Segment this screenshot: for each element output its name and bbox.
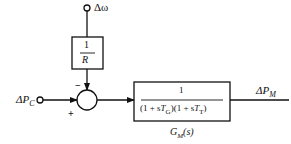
reference-power-terminal xyxy=(37,97,43,103)
droop-numerator: 1 xyxy=(84,40,89,50)
block-diagram-canvas xyxy=(0,0,291,144)
speed-deviation-label: Δω xyxy=(94,2,108,13)
reference-power-label: ΔPC xyxy=(16,94,35,108)
speed-deviation-terminal xyxy=(84,5,90,11)
summing-junction xyxy=(77,90,97,110)
output-label: ΔPM xyxy=(256,85,276,99)
transfer-denominator: (1 + sTG)(1 + sTT) xyxy=(140,104,207,116)
block-label: GM(s) xyxy=(170,127,194,140)
droop-denominator: R xyxy=(82,55,88,65)
minus-sign: − xyxy=(75,81,81,91)
plus-sign: + xyxy=(68,109,74,119)
transfer-numerator: 1 xyxy=(179,86,184,95)
